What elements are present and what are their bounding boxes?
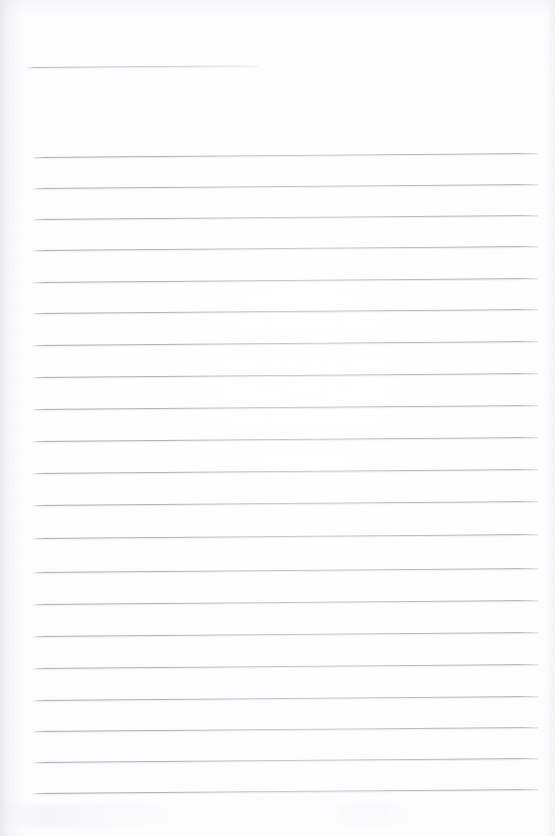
- ruled-line: [33, 501, 538, 506]
- ruled-line: [33, 278, 538, 283]
- ruled-line: [33, 664, 538, 669]
- ruled-line: [33, 341, 538, 346]
- ruled-line: [33, 469, 538, 474]
- ruled-line: [33, 568, 538, 573]
- ruled-line: [33, 437, 538, 442]
- ruled-line: [33, 600, 538, 605]
- ruled-line: [33, 153, 538, 158]
- ruled-line: [33, 246, 538, 251]
- ruled-line: [33, 789, 538, 794]
- ruled-line: [33, 758, 538, 763]
- ruled-line: [33, 215, 538, 220]
- ruled-line-short: [28, 65, 258, 68]
- ruled-line: [33, 405, 538, 410]
- ruled-line: [33, 373, 538, 378]
- ruled-line: [33, 534, 538, 539]
- ruled-line: [33, 632, 538, 637]
- ruled-lines-layer: [0, 0, 555, 836]
- scanned-page: [0, 0, 555, 836]
- ruled-line: [33, 696, 538, 701]
- ruled-line: [33, 727, 538, 732]
- ruled-line: [33, 309, 538, 314]
- ruled-line: [33, 184, 538, 189]
